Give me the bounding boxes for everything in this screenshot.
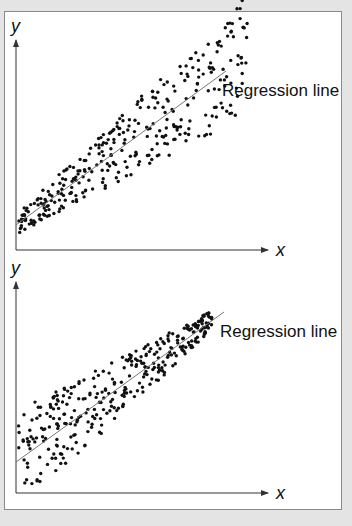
- data-points: [17, 311, 214, 485]
- regression-line: [16, 312, 224, 462]
- regression-line: [16, 71, 226, 225]
- regression-line-label: Regression line: [222, 81, 339, 100]
- scatter-plots: y x Regression line y x Regression line: [0, 0, 352, 526]
- scatter-chart-fan-out: y x Regression line: [9, 0, 339, 260]
- x-axis-label: x: [275, 240, 286, 260]
- regression-line-label: Regression line: [220, 322, 337, 341]
- x-axis-label: x: [275, 483, 286, 503]
- y-axis-label: y: [9, 16, 21, 36]
- scatter-chart-fan-in: y x Regression line: [9, 258, 337, 503]
- y-axis-label: y: [9, 258, 21, 278]
